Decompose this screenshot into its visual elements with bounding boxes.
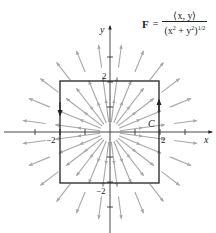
field-arrow: [122, 162, 131, 183]
field-arrow: [136, 99, 154, 113]
y-tick-label-neg2: −2: [96, 186, 106, 196]
field-arrow: [78, 128, 100, 131]
field-arrow: [29, 99, 50, 108]
field-arrow: [55, 125, 77, 128]
field-arrow: [80, 120, 101, 129]
field-arrow: [130, 88, 144, 106]
formula-denominator: (x2 + y2)1/2: [162, 22, 207, 37]
field-arrow: [98, 102, 107, 123]
field-arrow: [118, 45, 121, 67]
formula-numerator: ⟨x, y⟩: [171, 10, 198, 21]
field-arrow: [120, 128, 142, 131]
field-arrow: [140, 144, 161, 153]
field-arrow: [98, 141, 107, 162]
y-axis-label: y: [99, 24, 105, 35]
field-arrow: [136, 152, 154, 166]
field-arrow: [99, 196, 102, 218]
field-arrow: [120, 133, 142, 136]
field-arrow: [135, 51, 144, 72]
den-base: (x: [164, 25, 172, 36]
field-arrow: [170, 157, 191, 166]
formula-equals: =: [153, 18, 159, 29]
field-arrow: [29, 157, 50, 166]
field-arrow: [77, 88, 91, 106]
field-arrow: [106, 142, 109, 164]
field-arrow: [77, 51, 86, 72]
field-arrow: [162, 79, 180, 93]
field-arrow: [59, 144, 80, 153]
field-arrow: [77, 192, 86, 213]
curve-label: C: [148, 118, 155, 129]
field-arrow: [78, 133, 100, 136]
field-arrow: [66, 99, 84, 113]
field-arrow: [119, 120, 140, 129]
field-arrow: [41, 172, 59, 186]
formula-lhs: F: [142, 18, 149, 30]
field-arrow: [114, 102, 123, 123]
field-arrow: [174, 140, 196, 143]
y-tick-label-2: 2: [102, 71, 107, 81]
field-arrow: [99, 45, 102, 67]
field-arrow: [162, 172, 180, 186]
x-tick-label-neg2: −2: [46, 135, 56, 145]
field-arrow: [23, 140, 45, 143]
formula-fraction: ⟨x, y⟩ (x2 + y2)1/2: [162, 10, 207, 37]
field-arrow: [111, 100, 114, 122]
field-arrow: [150, 63, 164, 81]
field-arrow: [89, 81, 98, 102]
field-arrow: [174, 121, 196, 124]
field-formula: F = ⟨x, y⟩ (x2 + y2)1/2: [142, 10, 207, 37]
x-tick-label-2: 2: [161, 135, 166, 145]
field-arrow: [119, 136, 140, 145]
field-arrow: [170, 99, 191, 108]
field-arrow: [77, 158, 91, 176]
den-mid: + y: [176, 25, 192, 36]
field-arrow: [80, 136, 101, 145]
field-arrow: [150, 184, 164, 202]
x-axis-label: x: [203, 134, 209, 145]
field-arrow: [111, 142, 114, 164]
field-arrow: [59, 111, 80, 120]
field-arrow: [57, 63, 71, 81]
field-arrow: [89, 162, 98, 183]
field-arrow: [118, 196, 121, 218]
field-arrow: [41, 79, 59, 93]
field-arrow: [106, 100, 109, 122]
field-arrow: [66, 152, 84, 166]
field-arrow: [55, 136, 77, 139]
field-arrow: [122, 81, 131, 102]
den-exp3: 1/2: [198, 25, 206, 31]
field-arrow: [57, 184, 71, 202]
field-arrow: [23, 121, 45, 124]
field-arrow: [130, 158, 144, 176]
field-arrow: [114, 141, 123, 162]
field-arrow: [135, 192, 144, 213]
